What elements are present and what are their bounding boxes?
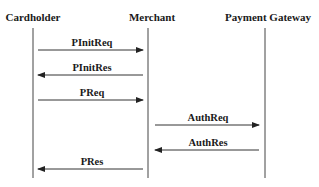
- diagram-lines: [0, 0, 319, 187]
- actor-cardholder: Cardholder: [6, 11, 61, 23]
- label-pinitres: PInitRes: [72, 62, 111, 73]
- sequence-diagram: Cardholder Merchant Payment Gateway PIni…: [0, 0, 319, 187]
- label-preq: PReq: [80, 87, 105, 98]
- label-pres: PRes: [81, 156, 104, 167]
- label-authreq: AuthReq: [188, 112, 229, 123]
- actor-payment-gateway: Payment Gateway: [225, 11, 311, 23]
- label-pinitreq: PInitReq: [72, 37, 113, 48]
- label-authres: AuthRes: [188, 137, 227, 148]
- actor-merchant: Merchant: [129, 11, 175, 23]
